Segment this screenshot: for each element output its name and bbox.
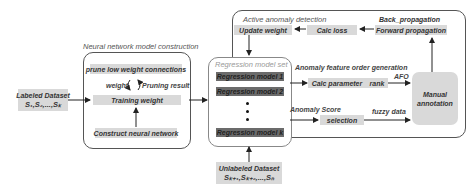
manual-annotation-box: Manual annotation bbox=[412, 72, 458, 125]
calc-loss-box: Calc loss bbox=[307, 25, 357, 35]
manual-annotation-label: Manual annotation bbox=[412, 90, 458, 108]
update-weight-box: Update weight bbox=[234, 25, 292, 35]
ellipsis-dot bbox=[246, 110, 249, 113]
unlabeled-dataset-title: Unlabeled Dataset bbox=[219, 164, 280, 173]
prune-connections-box: prune low weight connections bbox=[90, 64, 182, 74]
regression-model-2: Regression model 2 bbox=[216, 87, 284, 96]
ellipsis-dot bbox=[246, 118, 249, 121]
calc-parameter-rank-box: Calc parameter rank bbox=[308, 78, 388, 88]
forward-propagation-box: Forward propagation bbox=[375, 25, 447, 35]
labeled-dataset-formula: S₁,S₂,...,Sₖ bbox=[25, 100, 61, 109]
calc-parameter-label: Calc parameter bbox=[312, 80, 363, 87]
regression-set-title: Regression model set bbox=[215, 60, 288, 69]
training-weight-box: Training weight bbox=[93, 95, 181, 105]
back-propagation-label: Back_propagation bbox=[379, 16, 440, 23]
unlabeled-dataset: Unlabeled Dataset Sₖ₊₁,Sₖ₊₂,...,Sₙ bbox=[216, 162, 282, 184]
regression-model-k: Regression model k bbox=[216, 128, 284, 137]
selection-box: selection bbox=[320, 115, 364, 125]
ellipsis-dot bbox=[246, 102, 249, 105]
labeled-dataset: Labeled Dataset S₁,S₂,...,Sₖ bbox=[18, 89, 68, 111]
construct-nn-box: Construct neural network bbox=[95, 128, 177, 138]
unlabeled-dataset-formula: Sₖ₊₁,Sₖ₊₂,...,Sₙ bbox=[224, 173, 274, 182]
pruning-result-label: Pruning result bbox=[142, 82, 189, 89]
fuzzy-data-label: fuzzy data bbox=[372, 108, 406, 115]
weight-label: weight bbox=[106, 82, 128, 89]
anomaly-score-label: Anomaly Score bbox=[290, 106, 341, 113]
nn-construction-title: Neural network model construction bbox=[83, 42, 198, 51]
afo-label: AFO bbox=[394, 73, 409, 80]
feature-order-title: Anomaly feature order generation bbox=[295, 64, 407, 71]
regression-model-1: Regression model 1 bbox=[216, 72, 284, 81]
labeled-dataset-title: Labeled Dataset bbox=[16, 91, 70, 100]
active-detection-title: Active anomaly detection bbox=[243, 15, 326, 24]
rank-label: rank bbox=[370, 80, 385, 87]
